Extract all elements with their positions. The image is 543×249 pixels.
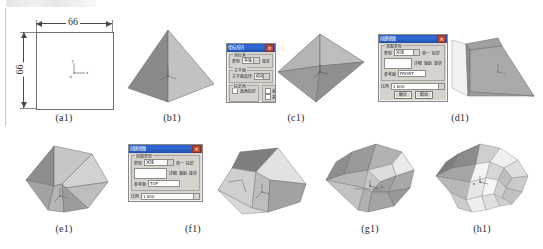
- radio-icon: [265, 94, 271, 100]
- dialog-f1-side-note-5: 旋转: [189, 170, 197, 176]
- dialog-f1-row3-label: 比例: [131, 193, 139, 199]
- dialog-f1-side-note-3: 详细: [169, 170, 177, 176]
- ok-button[interactable]: 确定: [146, 201, 164, 202]
- caption-a1: (a1): [14, 112, 114, 123]
- dialog-d1-row1-label: 类型: [384, 50, 392, 56]
- dimension-label-height: 66: [14, 63, 25, 77]
- square-diagram: 66 66 y x o: [14, 14, 114, 114]
- shape-pyramid-c1: [276, 32, 368, 108]
- dialog-c1[interactable]: 坐标系列 ✕ 坐标系 类型 等轴 毫米 主平面 主平面选择 俯视: [226, 43, 276, 103]
- dialog-d1-side-note-3: 详细: [414, 60, 422, 66]
- dialog-f1-side-note-2: 投影: [186, 160, 194, 166]
- dialog-d1-row1-combo[interactable]: 常规: [394, 49, 420, 56]
- dialog-f1-row1-combo[interactable]: 常规: [144, 159, 174, 166]
- svg-text:x: x: [86, 70, 89, 75]
- dialog-c1-row2-combo[interactable]: 俯视: [254, 73, 270, 80]
- svg-text:y: y: [71, 58, 74, 63]
- dialog-d1-listbox[interactable]: [384, 58, 412, 69]
- dialog-d1-row3-field[interactable]: 1.000: [391, 83, 445, 90]
- scan-artifact-top: [6, 0, 96, 7]
- caption-f1: (f1): [128, 223, 258, 234]
- ok-button[interactable]: 确定: [394, 91, 412, 99]
- axis-marker-icon: y x o: [37, 33, 113, 109]
- dialog-d1-side-note-1: 单一: [422, 50, 430, 56]
- dialog-c1-options: 投影角 直角投影 第一角法 第三角法: [229, 85, 273, 103]
- dialog-c1-row1-unit: 毫米: [262, 58, 270, 64]
- caption-h1: (h1): [428, 223, 536, 234]
- shape-polyhedron-h1: [428, 138, 536, 222]
- dialog-f1-row-2: 参考面 TOP: [134, 180, 197, 187]
- dialog-c1-radio-1[interactable]: 直角投影: [232, 88, 256, 94]
- close-icon[interactable]: ✕: [265, 44, 274, 52]
- dialog-f1-row1-label: 类型: [134, 160, 142, 166]
- caption-b1: (b1): [122, 112, 222, 123]
- dialog-c1-row-2: 主平面选择 俯视: [232, 73, 270, 80]
- cancel-button[interactable]: 取消: [415, 91, 433, 99]
- close-icon[interactable]: ✕: [437, 35, 446, 43]
- dialog-d1-group1-label: 视图类型: [385, 43, 403, 49]
- dialog-f1-row-notes: 详细 辅助 旋转: [134, 168, 197, 179]
- dialog-d1-buttons: 确定 取消: [381, 91, 445, 99]
- dialog-d1-row2-field[interactable]: FRONT: [398, 70, 426, 77]
- dialog-d1-group-1: 视图类型 类型 常规 单一 投影 详细 辅助 旋转 参考面 FRONT: [381, 45, 445, 81]
- svg-text:o: o: [70, 74, 73, 79]
- dialog-f1-row3-field[interactable]: 1.000: [141, 193, 200, 200]
- dialog-c1-row-1: 类型 等轴 毫米: [232, 57, 270, 64]
- dialog-c1-group-4: 第一角法 第三角法: [262, 85, 277, 102]
- dialog-d1-row-notes: 详细 辅助 旋转: [384, 58, 442, 69]
- shape-polyhedron-e1: [14, 140, 114, 222]
- dialog-d1[interactable]: 创建视图 ✕ 视图类型 类型 常规 单一 投影 详细 辅助 旋转: [378, 34, 448, 102]
- dialog-d1-row2-label: 参考面: [384, 71, 396, 77]
- dialog-d1-side-note-2: 投影: [432, 50, 440, 56]
- dialog-f1-listbox[interactable]: [134, 168, 167, 179]
- cancel-button[interactable]: 取消: [167, 201, 185, 202]
- dialog-c1-row1-combo[interactable]: 等轴: [242, 57, 260, 64]
- dialog-f1-side-note-4: 辅助: [179, 170, 187, 176]
- caption-g1: (g1): [318, 223, 422, 234]
- square-outline: y x o: [36, 32, 114, 110]
- dialog-c1-row2-label: 主平面选择: [232, 73, 252, 79]
- dialog-c1-group-2: 主平面 主平面选择 俯视: [229, 70, 273, 84]
- caption-c1: (c1): [226, 112, 366, 123]
- scan-artifact-rule: [5, 8, 6, 126]
- dialog-f1[interactable]: 创建视图 ✕ 视图类型 类型 常规 单一 投影 详细 辅助 旋转: [128, 144, 203, 202]
- shape-pyramid-b1: [122, 26, 222, 110]
- dialog-c1-body: 坐标系 类型 等轴 毫米 主平面 主平面选择 俯视 投影角: [227, 52, 275, 103]
- shape-polyhedron-g1: [318, 140, 422, 222]
- dialog-d1-row3-label: 比例: [381, 83, 389, 89]
- dialog-f1-row-3: 比例 1.000: [131, 193, 200, 200]
- dialog-f1-buttons: 确定 取消: [131, 201, 200, 202]
- dialog-f1-row-1: 类型 常规 单一 投影: [134, 159, 197, 166]
- dialog-c1-radio-3[interactable]: 第三角法: [265, 94, 277, 100]
- dialog-d1-side-note-4: 辅助: [424, 60, 432, 66]
- dialog-d1-row-1: 类型 常规 单一 投影: [384, 49, 442, 56]
- dialog-f1-side-note-1: 单一: [176, 160, 184, 166]
- caption-d1: (d1): [390, 112, 530, 123]
- shape-pyramid-d1: [448, 30, 542, 110]
- caption-e1: (e1): [14, 223, 114, 234]
- dialog-c1-row1-label: 类型: [232, 58, 240, 64]
- dialog-f1-group-1: 视图类型 类型 常规 单一 投影 详细 辅助 旋转 参考面 TOP: [131, 155, 200, 191]
- dialog-c1-radio1-label: 直角投影: [240, 88, 256, 94]
- close-icon[interactable]: ✕: [192, 145, 201, 153]
- dialog-f1-row2-label: 参考面: [134, 181, 146, 187]
- dialog-f1-body: 视图类型 类型 常规 单一 投影 详细 辅助 旋转 参考面 TOP: [129, 153, 202, 202]
- dimension-label-width: 66: [66, 16, 80, 27]
- dialog-c1-group-1: 坐标系 类型 等轴 毫米: [229, 54, 273, 68]
- dialog-d1-body: 视图类型 类型 常规 单一 投影 详细 辅助 旋转 参考面 FRONT: [379, 43, 447, 101]
- dialog-d1-row-2: 参考面 FRONT: [384, 70, 442, 77]
- dialog-f1-group1-label: 视图类型: [135, 153, 153, 159]
- dialog-d1-side-note-5: 旋转: [434, 60, 442, 66]
- radio-icon: [232, 88, 238, 94]
- dialog-c1-group-3: 投影角 直角投影: [229, 85, 259, 102]
- dialog-f1-row2-field[interactable]: TOP: [148, 180, 180, 187]
- dialog-d1-row-3: 比例 1.000: [381, 83, 445, 90]
- shape-prism-f1: [212, 146, 312, 222]
- figure-panel: 66 66 y x o (a1) (b1) 坐标系列: [0, 0, 543, 249]
